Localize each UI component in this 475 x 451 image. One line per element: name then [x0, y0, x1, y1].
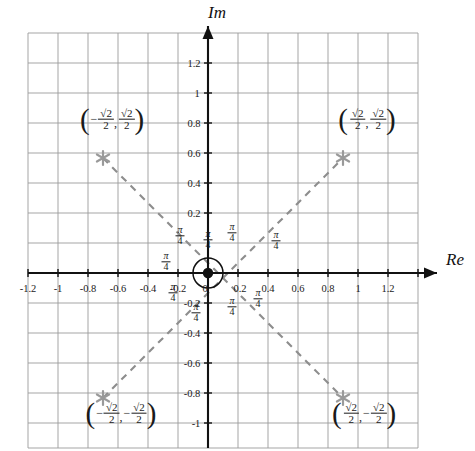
comma: ,: [114, 109, 117, 129]
angle-fraction: π4: [168, 282, 177, 303]
angle-label-pi-over-4: π4: [203, 229, 212, 250]
x-tick-label: -1: [54, 283, 63, 294]
angle-fraction: π4: [227, 222, 236, 243]
angle-label-pi-over-4: π4: [227, 296, 236, 317]
re-sign: −: [95, 407, 104, 419]
im-fraction: √22: [119, 107, 135, 130]
im-fraction: √22: [131, 401, 147, 424]
angle-label-pi-over-4: π4: [175, 225, 184, 246]
y-tick-label: 1: [194, 88, 199, 99]
angle-fraction: π4: [271, 230, 280, 251]
x-tick-label-origin: 0: [202, 283, 207, 294]
im-sign: −: [123, 407, 132, 419]
real-axis-arrow: [424, 268, 437, 279]
im-fraction: √22: [371, 401, 387, 424]
paren-close: ): [134, 107, 144, 132]
x-tick-label: -0.6: [110, 283, 127, 294]
imaginary-axis-label: Im: [208, 3, 226, 23]
re-sign: −: [90, 113, 99, 125]
x-tick-label: -0.8: [80, 283, 97, 294]
angle-fraction: π4: [203, 229, 212, 250]
point-label-root-1: (√22,√22): [338, 107, 395, 132]
y-tick-label: 1.2: [187, 58, 200, 69]
paren-close: ): [386, 107, 396, 132]
y-tick-label: 0.2: [187, 208, 200, 219]
x-tick-label: 0.8: [321, 283, 334, 294]
origin-dot: [203, 268, 213, 278]
y-tick-label: -0.8: [184, 388, 201, 399]
comma: ,: [366, 109, 369, 129]
y-tick-label: -1: [192, 418, 201, 429]
re-fraction: √22: [98, 107, 114, 130]
angle-label-pi-over-4: π4: [168, 282, 177, 303]
y-tick-label: -0.4: [184, 328, 201, 339]
angle-label-pi-over-4: π4: [227, 222, 236, 243]
real-axis-label: Re: [446, 250, 464, 270]
angle-fraction: π4: [175, 225, 184, 246]
re-fraction: √22: [350, 107, 366, 130]
re-fraction: √22: [104, 401, 120, 424]
angle-fraction: π4: [191, 302, 200, 323]
y-tick-label: 0.8: [187, 118, 200, 129]
paren-open: (: [332, 401, 342, 426]
point-label-root-2: (−√22,√22): [80, 107, 144, 132]
imaginary-axis-arrow: [203, 26, 214, 39]
angle-label-pi-over-4: π4: [191, 302, 200, 323]
angle-label-pi-over-4: π4: [253, 288, 262, 309]
x-tick-label: 0.2: [233, 283, 246, 294]
x-tick-label: -0.4: [140, 283, 157, 294]
x-tick-label: 0.6: [291, 283, 304, 294]
x-tick-label: -1.2: [20, 283, 37, 294]
x-tick-label: 1: [355, 283, 360, 294]
x-tick-label: 1.2: [381, 283, 394, 294]
angle-label-pi-over-4: π4: [271, 230, 280, 251]
paren-close: ): [147, 401, 157, 426]
y-tick-label: -0.6: [184, 358, 201, 369]
plot-canvas: [0, 0, 475, 451]
paren-open: (: [338, 107, 348, 132]
angle-fraction: π4: [253, 288, 262, 309]
dashed-diagonals: [103, 158, 343, 398]
angle-label-pi-over-4: π4: [161, 251, 170, 272]
paren-open: (: [80, 107, 90, 132]
point-label-root-3: (−√22,−√22): [86, 401, 157, 426]
grid-lines-vertical: [28, 33, 418, 448]
x-tick-label: 0.4: [261, 283, 274, 294]
paren-close: ): [386, 401, 396, 426]
grid-lines-horizontal: [28, 33, 418, 448]
paren-open: (: [86, 401, 96, 426]
angle-fraction: π4: [227, 296, 236, 317]
im-fraction: √22: [371, 107, 387, 130]
im-sign: −: [362, 407, 371, 419]
y-tick-label: 0.4: [187, 178, 200, 189]
re-fraction: √22: [344, 401, 360, 424]
point-label-root-4: (√22,−√22): [332, 401, 396, 426]
angle-fraction: π4: [161, 251, 170, 272]
complex-plane-figure: Im Re -1.2 -1 -0.8 -0.6 -0.4 -0.2 0 0.2 …: [0, 0, 475, 451]
y-tick-label: 0.6: [187, 148, 200, 159]
